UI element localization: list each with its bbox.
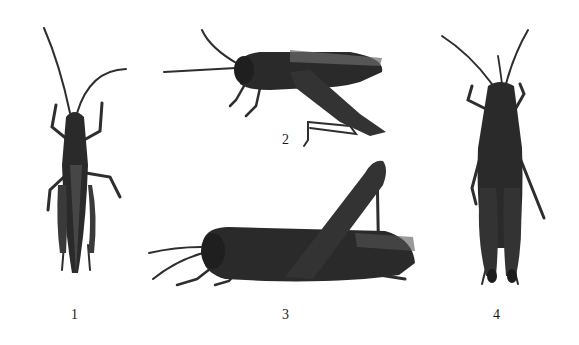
specimen-figure-3 (145, 155, 420, 290)
grasshopper-dorsal-icon (30, 25, 130, 280)
figure-label-3: 3 (282, 308, 289, 322)
specimen-figure-4 (440, 28, 555, 293)
grasshopper-lateral-icon (160, 28, 390, 148)
figure-label-4: 4 (493, 308, 500, 322)
specimen-figure-1 (30, 25, 130, 280)
figure-label-1: 1 (71, 308, 78, 322)
figure-label-2: 2 (282, 133, 289, 147)
figure-plate: 1 2 (0, 0, 579, 345)
specimen-figure-2 (160, 28, 390, 148)
grasshopper-dorsal-icon (440, 28, 555, 293)
grasshopper-lateral-icon (145, 155, 420, 290)
